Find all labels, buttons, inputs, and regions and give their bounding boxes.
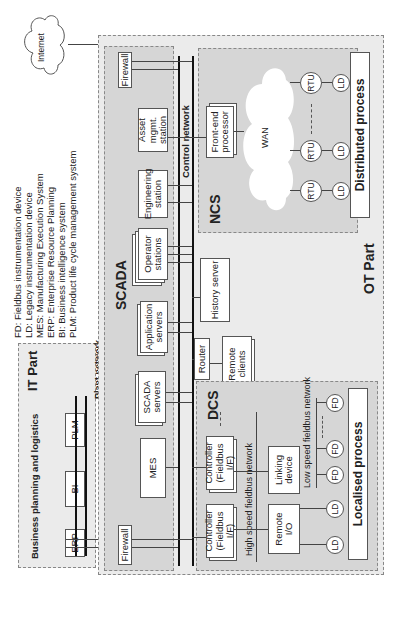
rtu-2: RTU xyxy=(300,140,322,162)
internet-label: Internet xyxy=(36,33,46,62)
dcs-title: DCS xyxy=(205,390,221,420)
architecture-diagram: FD: Fieldbus instrumentation device LD: … xyxy=(0,0,396,618)
history-server-box: History server xyxy=(200,258,230,322)
it-subtitle: Business planning and logistics xyxy=(29,414,40,559)
ld-device-2: LD xyxy=(326,500,344,518)
legend-bi: BI: Business intelligence system xyxy=(56,138,67,338)
remote-io-box: Remote I/O xyxy=(268,504,300,554)
wan-label: WAN xyxy=(260,127,270,148)
legend-fd: FD: Fieldbus instrumentation device xyxy=(12,138,23,338)
control-network-label: Control network xyxy=(180,105,191,178)
ncs-ld-1: LD xyxy=(332,182,350,200)
localised-process-box: Localised process xyxy=(348,388,368,560)
linking-device-box: Linking device xyxy=(268,446,300,494)
plant-network-bus xyxy=(75,396,77,556)
control-network-bus-2 xyxy=(192,56,194,566)
scada-title: SCADA xyxy=(113,260,129,310)
router-box: Router xyxy=(194,338,210,380)
ncs-title: NCS xyxy=(207,194,223,224)
firewall-right: Firewall xyxy=(118,52,132,88)
asset-mgmt-station-box: Asset mgmt. station xyxy=(138,108,168,152)
rtu-3: RTU xyxy=(300,72,322,94)
internet-link xyxy=(68,44,98,45)
internet-cloud: Internet xyxy=(14,10,70,80)
controller-2-box: Controller (Fieldbus I/F) xyxy=(206,436,234,490)
plant-network-bus-2 xyxy=(85,396,87,556)
legend: FD: Fieldbus instrumentation device LD: … xyxy=(12,138,78,338)
high-speed-fieldbus-label: High speed fieldbus network xyxy=(244,443,254,556)
ncs-ld-2: LD xyxy=(332,142,350,160)
legend-erp: ERP: Enterprise Resource Planning xyxy=(45,138,56,338)
distributed-process-box: Distributed process xyxy=(350,52,370,218)
ncs-ld-3: LD xyxy=(332,74,350,92)
fd-device-3: FD xyxy=(326,394,344,412)
legend-ld: LD: Legacy instrumentation device xyxy=(23,138,34,338)
fd-device-2: FD xyxy=(326,440,344,458)
application-servers-box: Application servers xyxy=(140,301,168,353)
controller-1-box: Controller (Fieldbus I/F) xyxy=(206,504,234,558)
legend-mes: MES: Manufacturing Execution System xyxy=(34,138,45,338)
front-end-processor-box: Front-end processor xyxy=(206,106,234,158)
ld-device-1: LD xyxy=(326,536,344,554)
low-speed-fieldbus-label: Low speed fieldbus network xyxy=(302,377,312,488)
engineering-station-box: Engineering station xyxy=(138,170,168,218)
wan-cloud: WAN xyxy=(236,58,296,218)
firewall-left: Firewall xyxy=(118,525,132,565)
legend-plm: PLM: Product life cycle management syste… xyxy=(67,138,78,338)
fd-device-1: FD xyxy=(326,466,344,484)
ot-part-title: OT Part xyxy=(361,243,377,294)
operator-stations-box: Operator stations xyxy=(138,228,168,280)
mes-box: MES xyxy=(140,438,166,498)
scada-servers-box: SCADA servers xyxy=(138,371,166,423)
rtu-1: RTU xyxy=(300,180,322,202)
it-part-title: IT Part xyxy=(25,351,40,391)
